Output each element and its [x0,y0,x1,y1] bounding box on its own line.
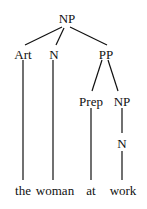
node-prep: Prep [79,95,103,109]
word-at: at [86,184,95,198]
node-art: Art [14,48,31,62]
node-np-root: NP [59,12,76,26]
node-np-inner: NP [114,95,131,109]
word-the: the [15,184,31,198]
word-woman: woman [36,184,74,198]
node-n: N [49,48,58,62]
word-work: work [110,184,137,198]
node-pp: PP [99,48,113,62]
node-n-inner: N [117,137,126,151]
